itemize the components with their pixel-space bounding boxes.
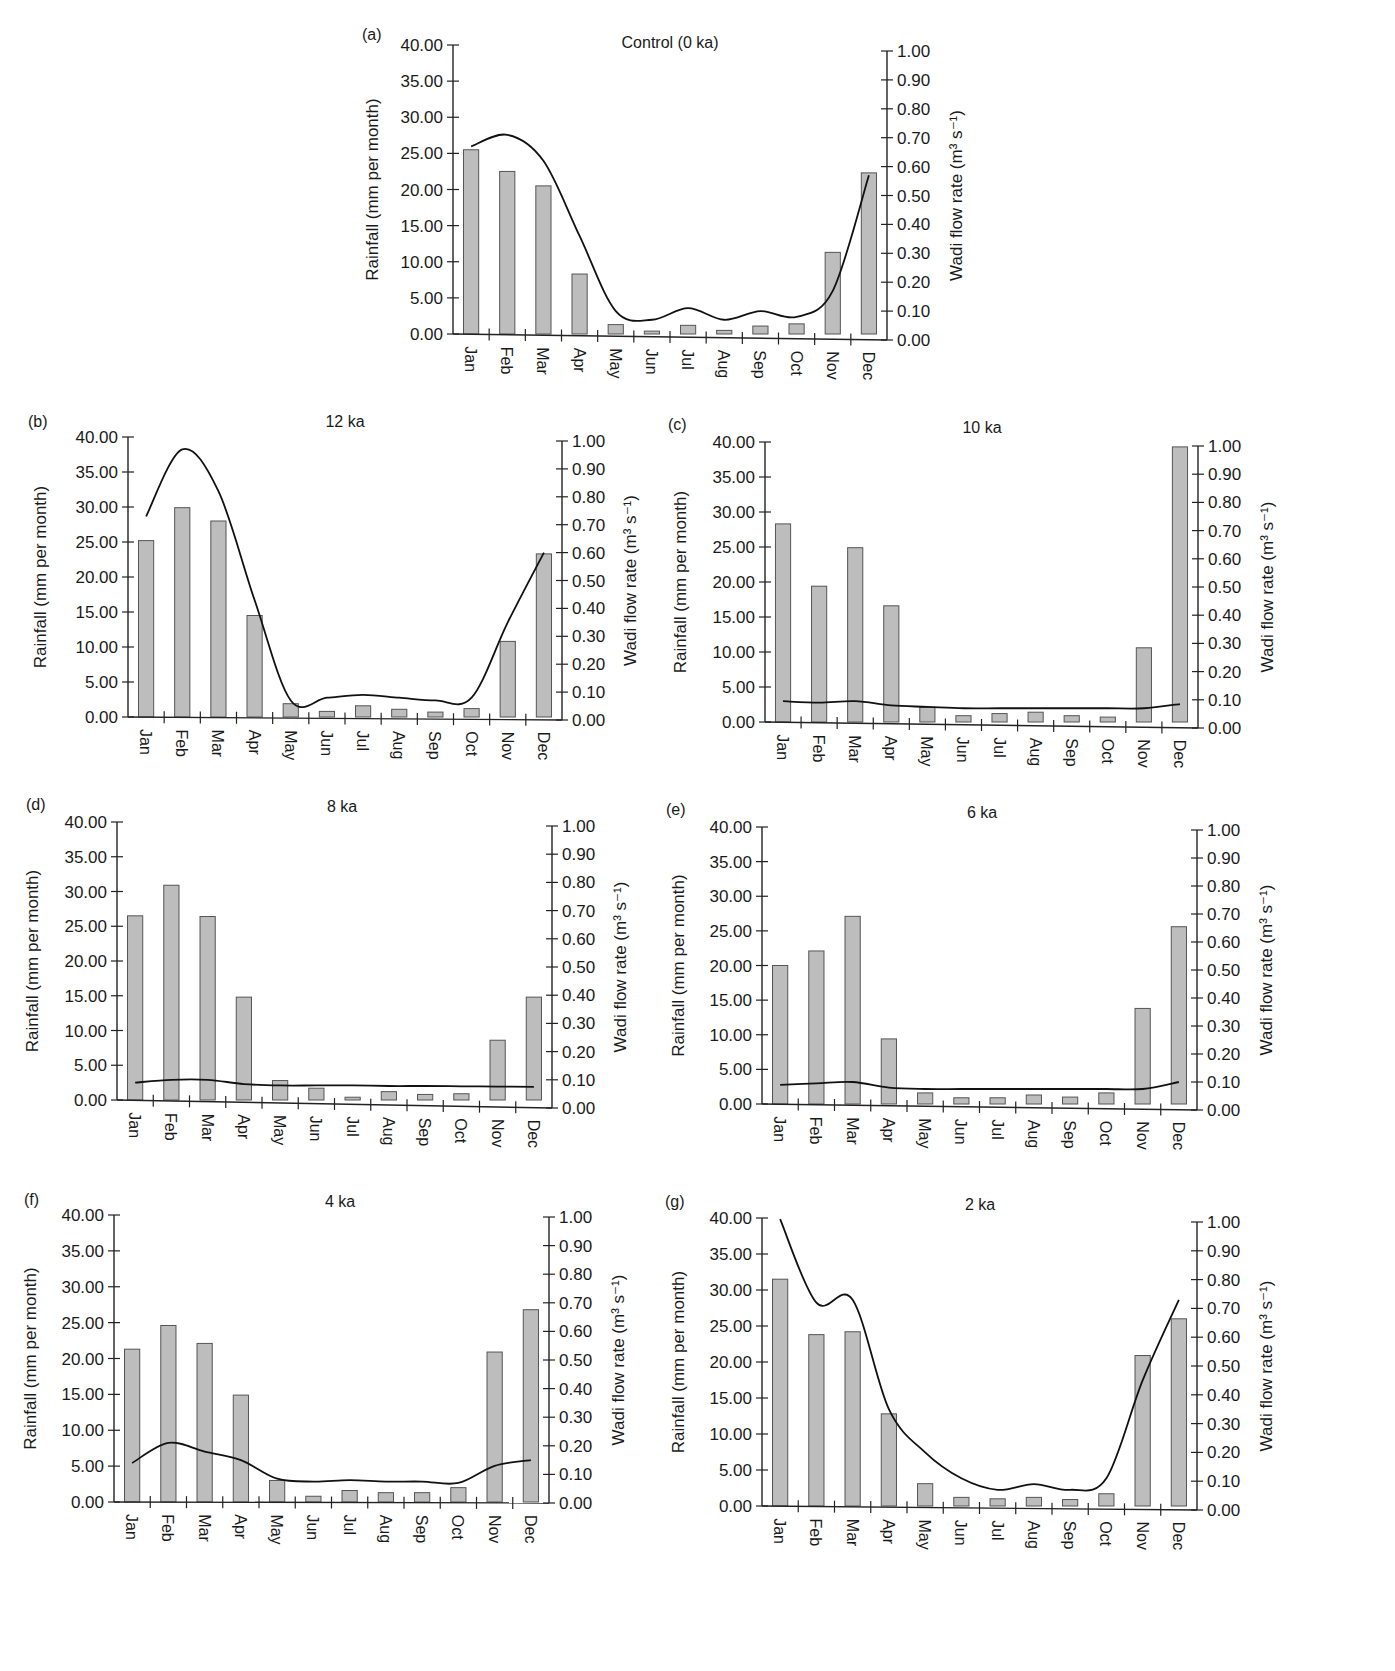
left-tick-label: 40.00 bbox=[61, 1206, 104, 1225]
left-tick-label: 0.00 bbox=[719, 1497, 752, 1516]
right-axis-title: Wadi flow rate (m³ s⁻¹) bbox=[609, 1275, 628, 1446]
left-tick-label: 10.00 bbox=[75, 638, 118, 657]
left-tick-label: 40.00 bbox=[709, 818, 752, 837]
right-tick-label: 0.80 bbox=[897, 100, 930, 119]
right-tick-label: 0.50 bbox=[562, 958, 595, 977]
right-tick-label: 0.10 bbox=[572, 683, 605, 702]
rainfall-bar-feb bbox=[809, 1335, 824, 1506]
left-tick-label: 25.00 bbox=[709, 1317, 752, 1336]
left-tick-label: 25.00 bbox=[709, 922, 752, 941]
rainfall-bar-sep bbox=[428, 712, 443, 717]
right-tick-label: 0.40 bbox=[1207, 989, 1240, 1008]
month-label-aug: Aug bbox=[380, 1117, 397, 1145]
right-tick-label: 0.70 bbox=[559, 1294, 592, 1313]
right-tick-label: 0.30 bbox=[559, 1408, 592, 1427]
month-label-sep: Sep bbox=[416, 1118, 433, 1147]
left-tick-label: 10.00 bbox=[709, 1026, 752, 1045]
left-tick-label: 35.00 bbox=[64, 848, 107, 867]
month-label-dec: Dec bbox=[860, 352, 877, 380]
right-tick-label: 0.30 bbox=[1207, 1017, 1240, 1036]
right-tick-label: 0.50 bbox=[559, 1351, 592, 1370]
month-label-jun: Jun bbox=[952, 1119, 969, 1145]
right-tick-label: 0.30 bbox=[1208, 634, 1241, 653]
month-label-feb: Feb bbox=[498, 347, 515, 375]
month-label-dec: Dec bbox=[1170, 1522, 1187, 1550]
month-label-nov: Nov bbox=[1135, 739, 1152, 767]
left-tick-label: 30.00 bbox=[75, 498, 118, 517]
right-tick-label: 0.30 bbox=[1207, 1415, 1240, 1434]
right-axis-title: Wadi flow rate (m³ s⁻¹) bbox=[1258, 502, 1277, 673]
month-label-jun: Jun bbox=[318, 730, 335, 756]
right-tick-label: 0.60 bbox=[1208, 550, 1241, 569]
month-label-mar: Mar bbox=[199, 1114, 216, 1142]
month-label-jan: Jan bbox=[771, 1116, 788, 1142]
right-tick-label: 0.90 bbox=[562, 845, 595, 864]
right-tick-label: 0.70 bbox=[1207, 1299, 1240, 1318]
left-tick-label: 25.00 bbox=[61, 1314, 104, 1333]
rainfall-bar-jun bbox=[309, 1088, 324, 1100]
right-tick-label: 0.80 bbox=[562, 873, 595, 892]
month-label-apr: Apr bbox=[232, 1514, 249, 1540]
month-label-nov: Nov bbox=[499, 732, 516, 760]
right-tick-label: 0.10 bbox=[559, 1465, 592, 1484]
month-label-jul: Jul bbox=[344, 1116, 361, 1136]
left-tick-label: 15.00 bbox=[709, 991, 752, 1010]
month-label-oct: Oct bbox=[1097, 1521, 1114, 1546]
month-label-nov: Nov bbox=[1134, 1522, 1151, 1550]
rainfall-bar-aug bbox=[378, 1493, 393, 1502]
right-axis-title: Wadi flow rate (m³ s⁻¹) bbox=[1257, 1281, 1276, 1452]
rainfall-bar-dec bbox=[1171, 927, 1186, 1104]
rainfall-bar-jun bbox=[319, 711, 334, 717]
rainfall-bar-jun bbox=[954, 1497, 969, 1506]
month-label-oct: Oct bbox=[449, 1515, 466, 1540]
left-axis-title: Rainfall (mm per month) bbox=[31, 486, 50, 668]
left-tick-label: 35.00 bbox=[712, 468, 755, 487]
wadi-flow-line bbox=[146, 449, 544, 707]
rainfall-bar-nov bbox=[487, 1352, 502, 1502]
right-tick-label: 1.00 bbox=[1207, 821, 1240, 840]
rainfall-bar-dec bbox=[523, 1310, 538, 1502]
left-axis-title: Rainfall (mm per month) bbox=[671, 491, 690, 673]
left-tick-label: 40.00 bbox=[712, 433, 755, 452]
right-tick-label: 0.80 bbox=[572, 488, 605, 507]
rainfall-bar-mar bbox=[845, 916, 860, 1104]
left-axis-title: Rainfall (mm per month) bbox=[23, 870, 42, 1052]
month-label-mar: Mar bbox=[844, 1117, 861, 1145]
left-tick-label: 5.00 bbox=[719, 1461, 752, 1480]
rainfall-bar-jan bbox=[128, 916, 143, 1100]
rainfall-bar-dec bbox=[526, 997, 541, 1100]
rainfall-bar-oct bbox=[789, 324, 804, 334]
rainfall-bar-jul bbox=[990, 1499, 1005, 1506]
rainfall-bar-aug bbox=[392, 709, 407, 717]
month-label-nov: Nov bbox=[824, 351, 841, 379]
right-tick-label: 1.00 bbox=[572, 432, 605, 451]
left-tick-label: 20.00 bbox=[400, 181, 443, 200]
rainfall-bar-dec bbox=[1172, 447, 1187, 722]
rainfall-bar-jul bbox=[342, 1491, 357, 1502]
left-tick-label: 5.00 bbox=[85, 673, 118, 692]
left-tick-label: 15.00 bbox=[712, 608, 755, 627]
left-tick-label: 15.00 bbox=[61, 1385, 104, 1404]
left-tick-label: 40.00 bbox=[75, 428, 118, 447]
month-label-mar: Mar bbox=[844, 1519, 861, 1547]
right-tick-label: 0.60 bbox=[1207, 933, 1240, 952]
chart-panel-g: (g)2 ka0.005.0010.0015.0020.0025.0030.00… bbox=[665, 1193, 1276, 1550]
right-tick-label: 0.30 bbox=[562, 1014, 595, 1033]
month-label-aug: Aug bbox=[1025, 1521, 1042, 1549]
left-tick-label: 10.00 bbox=[712, 643, 755, 662]
month-label-aug: Aug bbox=[377, 1515, 394, 1543]
left-tick-label: 20.00 bbox=[712, 573, 755, 592]
left-tick-label: 35.00 bbox=[61, 1242, 104, 1261]
rainfall-bar-jan bbox=[125, 1349, 140, 1502]
right-tick-label: 0.30 bbox=[572, 627, 605, 646]
right-axis-title: Wadi flow rate (m³ s⁻¹) bbox=[1257, 885, 1276, 1056]
month-label-jul: Jul bbox=[679, 349, 696, 369]
rainfall-bar-feb bbox=[809, 951, 824, 1104]
left-tick-label: 35.00 bbox=[400, 72, 443, 91]
month-label-mar: Mar bbox=[209, 730, 226, 758]
month-label-mar: Mar bbox=[846, 735, 863, 763]
rainfall-bar-jul bbox=[990, 1098, 1005, 1104]
rainfall-bar-jul bbox=[992, 714, 1007, 722]
right-tick-label: 0.00 bbox=[562, 1099, 595, 1118]
month-label-apr: Apr bbox=[882, 736, 899, 762]
